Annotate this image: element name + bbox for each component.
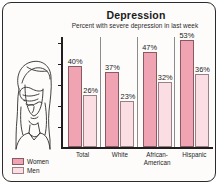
chart-card: Depression Percent with severe depressio…: [2, 2, 216, 182]
legend-label-men: Men: [27, 167, 39, 174]
legend-swatch-men-icon: [12, 167, 24, 174]
x-axis-label-line: African-: [139, 151, 176, 159]
x-axis-label-line: Total: [64, 151, 101, 159]
bar-men[interactable]: 32%: [158, 82, 172, 147]
y-axis-tick: [58, 106, 62, 107]
y-axis: [61, 37, 63, 149]
y-axis-tick: [58, 43, 62, 44]
bar-value-label: 26%: [83, 86, 98, 95]
bar-value-label: 23%: [121, 92, 136, 101]
bar-groups: 40% 26% 37% 23% 47%: [64, 37, 213, 147]
x-axis-label-line: Hispanic: [176, 151, 213, 159]
legend-swatch-women-icon: [12, 158, 24, 165]
y-axis-tick: [58, 127, 62, 128]
y-axis-tick: [58, 85, 62, 86]
bar-women[interactable]: 40%: [68, 66, 82, 147]
x-axis-label-total: Total: [64, 151, 101, 177]
woman-hand-on-forehead-icon: [9, 45, 57, 153]
legend-item-men[interactable]: Men: [12, 167, 64, 174]
bar-women[interactable]: 53%: [180, 40, 194, 147]
bar-value-label: 32%: [158, 73, 173, 82]
bar-men[interactable]: 26%: [83, 95, 97, 147]
page-title: Depression: [61, 9, 211, 21]
bar-women[interactable]: 47%: [143, 52, 157, 147]
legend-item-women[interactable]: Women: [12, 158, 64, 165]
x-axis-label-hispanic: Hispanic: [176, 151, 213, 177]
y-axis-tick: [58, 64, 62, 65]
chart-legend: Women Men: [12, 158, 64, 176]
x-axis-label-white: White: [101, 151, 138, 177]
bar-group: 40% 26%: [64, 37, 101, 147]
bar-value-label: 53%: [179, 31, 194, 40]
legend-label-women: Women: [27, 158, 49, 165]
chart-plot-area: 40% 26% 37% 23% 47%: [61, 37, 213, 155]
bar-value-label: 47%: [142, 43, 157, 52]
x-axis-labels: Total White African- American Hispanic: [64, 151, 213, 177]
bar-group: 47% 32%: [139, 37, 176, 147]
bar-men[interactable]: 36%: [195, 74, 209, 147]
chart-subtitle: Percent with severe depression in last w…: [51, 22, 216, 29]
bar-group: 37% 23%: [101, 37, 138, 147]
x-axis-label-line: American: [139, 159, 176, 167]
bar-men[interactable]: 23%: [120, 101, 134, 147]
bar-value-label: 36%: [195, 65, 210, 74]
x-axis: [61, 147, 213, 149]
x-axis-label-line: White: [101, 151, 138, 159]
bar-value-label: 40%: [68, 57, 83, 66]
bar-women[interactable]: 37%: [105, 72, 119, 147]
bar-group: 53% 36%: [176, 37, 213, 147]
x-axis-label-african-american: African- American: [139, 151, 176, 177]
bar-value-label: 37%: [105, 63, 120, 72]
